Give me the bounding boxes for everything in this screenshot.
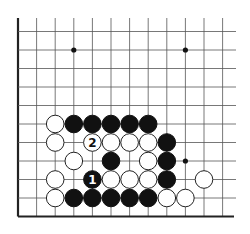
white-stone-disc bbox=[177, 189, 195, 207]
white-stone bbox=[102, 171, 120, 189]
black-stone bbox=[65, 189, 83, 207]
white-stone-disc bbox=[195, 171, 213, 189]
white-stone bbox=[46, 115, 64, 133]
black-stone-disc bbox=[84, 115, 102, 133]
black-stone bbox=[139, 189, 157, 207]
white-stone bbox=[46, 189, 64, 207]
black-stone bbox=[121, 115, 139, 133]
black-stone-disc bbox=[158, 152, 176, 170]
white-stone bbox=[139, 171, 157, 189]
white-stone bbox=[158, 189, 176, 207]
white-stone-disc bbox=[46, 189, 64, 207]
white-stone-disc bbox=[121, 171, 139, 189]
black-stone-disc bbox=[102, 189, 120, 207]
white-stone-disc bbox=[139, 171, 157, 189]
black-stone bbox=[121, 189, 139, 207]
white-stone bbox=[102, 134, 120, 152]
go-board: 21 bbox=[0, 0, 250, 234]
white-stone-disc bbox=[102, 134, 120, 152]
black-stone-disc bbox=[139, 189, 157, 207]
black-stone-disc bbox=[84, 189, 102, 207]
white-stone-disc bbox=[46, 134, 64, 152]
black-stone-disc bbox=[65, 189, 83, 207]
white-stone-disc bbox=[46, 171, 64, 189]
black-stone bbox=[84, 115, 102, 133]
white-stone bbox=[177, 189, 195, 207]
black-stone bbox=[158, 152, 176, 170]
black-stone bbox=[102, 189, 120, 207]
star-point bbox=[183, 158, 188, 163]
white-stone: 2 bbox=[84, 134, 102, 152]
black-stone bbox=[65, 115, 83, 133]
black-stone-disc bbox=[102, 152, 120, 170]
move-number-label: 2 bbox=[88, 136, 96, 150]
black-stone bbox=[84, 189, 102, 207]
white-stone-disc bbox=[65, 152, 83, 170]
black-stone bbox=[139, 115, 157, 133]
white-stone bbox=[139, 134, 157, 152]
white-stone bbox=[121, 134, 139, 152]
white-stone bbox=[139, 152, 157, 170]
white-stone bbox=[46, 171, 64, 189]
white-stone-disc bbox=[46, 115, 64, 133]
white-stone-disc bbox=[158, 189, 176, 207]
white-stone-disc bbox=[139, 134, 157, 152]
white-stone bbox=[46, 134, 64, 152]
star-point bbox=[183, 47, 188, 52]
white-stone bbox=[121, 171, 139, 189]
white-stone-disc bbox=[102, 171, 120, 189]
white-stone-disc bbox=[139, 152, 157, 170]
black-stone-disc bbox=[121, 189, 139, 207]
black-stone-disc bbox=[121, 115, 139, 133]
black-stone bbox=[102, 115, 120, 133]
white-stone bbox=[195, 171, 213, 189]
black-stone bbox=[158, 134, 176, 152]
black-stone-disc bbox=[139, 115, 157, 133]
white-stone-disc bbox=[121, 134, 139, 152]
black-stone-disc bbox=[158, 171, 176, 189]
black-stone-disc bbox=[102, 115, 120, 133]
black-stone bbox=[158, 171, 176, 189]
black-stone-disc bbox=[65, 115, 83, 133]
star-point bbox=[71, 47, 76, 52]
black-stone: 1 bbox=[84, 171, 102, 189]
black-stone bbox=[102, 152, 120, 170]
black-stone-disc bbox=[158, 134, 176, 152]
white-stone bbox=[65, 152, 83, 170]
move-number-label: 1 bbox=[88, 173, 96, 187]
